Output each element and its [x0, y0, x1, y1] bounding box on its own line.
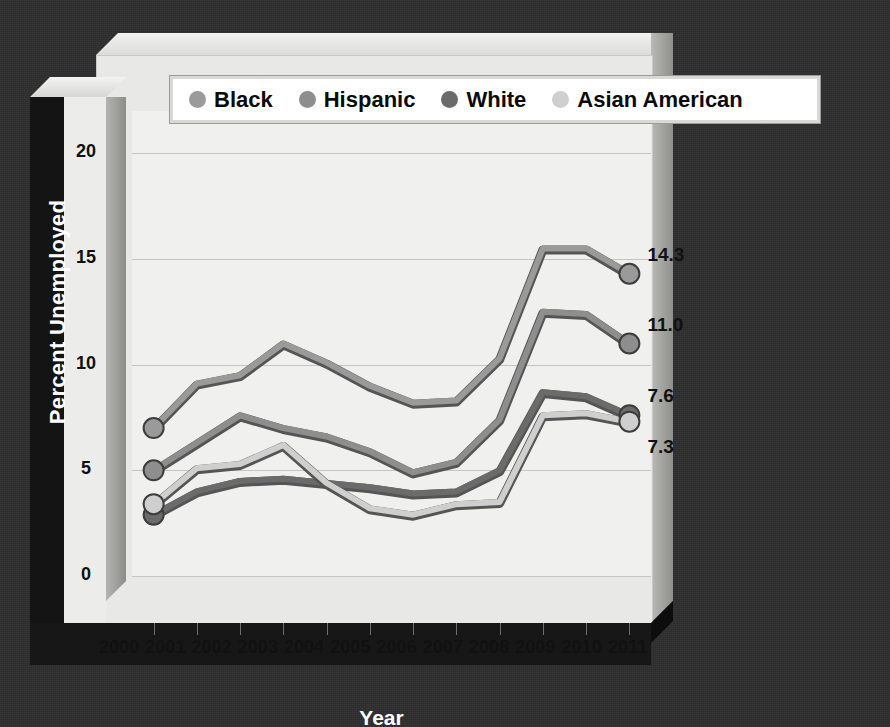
- legend-swatch-circle-icon: [552, 91, 569, 108]
- x-tick-label: 2008: [466, 633, 512, 663]
- legend-item-hispanic[interactable]: Hispanic: [299, 87, 416, 113]
- plot-area: [132, 111, 651, 576]
- y-tick-label: 15: [64, 247, 108, 268]
- x-tick-label: 2004: [281, 633, 327, 663]
- data-point-marker: [619, 334, 639, 354]
- legend-label: Asian American: [577, 87, 742, 113]
- x-tick-label: 2003: [235, 633, 281, 663]
- gridline: [132, 576, 651, 577]
- series-lines: [132, 111, 651, 576]
- legend-item-asian-american[interactable]: Asian American: [552, 87, 742, 113]
- x-tick-label: 2001: [142, 633, 188, 663]
- data-point-marker: [144, 418, 164, 438]
- x-tick-label: 2007: [420, 633, 466, 663]
- x-tick-label: 2000: [96, 633, 142, 663]
- legend-swatch-circle-icon: [189, 91, 206, 108]
- y-tick-label: 10: [64, 353, 108, 374]
- end-value-label: 7.3: [647, 436, 673, 458]
- end-value-label: 11.0: [647, 314, 683, 336]
- series-line: [154, 248, 630, 428]
- x-tick-label: 2011: [605, 633, 651, 663]
- data-point-marker: [144, 460, 164, 480]
- y-axis-title: Percent Unemployed: [41, 62, 75, 562]
- y-tick-label: 5: [64, 458, 108, 479]
- legend-label: Black: [214, 87, 273, 113]
- x-tick-label: 2002: [189, 633, 235, 663]
- y-tick-label: 20: [64, 141, 108, 162]
- legend-swatch-circle-icon: [441, 91, 458, 108]
- end-value-label: 14.3: [647, 244, 684, 266]
- series-line-shadow: [154, 250, 630, 430]
- x-tick-label: 2006: [374, 633, 420, 663]
- x-tick-label: 2005: [327, 633, 373, 663]
- chart-3d-frame: Percent Unemployed 05101520 14.311.07.67…: [30, 33, 673, 665]
- data-point-marker: [619, 264, 639, 284]
- x-axis-title: Year: [60, 701, 703, 727]
- legend-label: White: [466, 87, 526, 113]
- legend-item-black[interactable]: Black: [189, 87, 273, 113]
- chart-legend: BlackHispanicWhiteAsian American: [170, 76, 820, 123]
- x-tick-label: 2009: [512, 633, 558, 663]
- data-point-marker: [619, 412, 639, 432]
- y-tick-label: 0: [64, 564, 108, 585]
- y-axis-spine: [106, 97, 126, 601]
- legend-swatch-circle-icon: [299, 91, 316, 108]
- x-tick-labels: 2000200120022003200420052006200720082009…: [96, 633, 651, 663]
- data-point-marker: [144, 494, 164, 514]
- legend-label: Hispanic: [324, 87, 416, 113]
- legend-item-white[interactable]: White: [441, 87, 526, 113]
- end-value-label: 7.6: [647, 385, 673, 407]
- slab-top-bevel: [96, 33, 673, 55]
- x-tick-label: 2010: [559, 633, 605, 663]
